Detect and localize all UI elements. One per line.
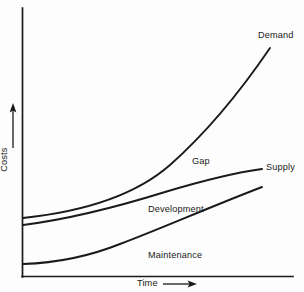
demand-curve <box>23 48 270 218</box>
chart-canvas <box>0 0 304 292</box>
gap-annotation-label: Gap <box>192 157 210 166</box>
demand-series-label: Demand <box>258 31 294 40</box>
maintenance-region-label: Maintenance <box>148 251 202 260</box>
x-axis-right-arrow-icon <box>163 281 197 288</box>
y-axis-up-arrow-icon <box>10 103 17 148</box>
x-axis-label: Time <box>137 279 158 288</box>
supply-curve <box>23 169 262 225</box>
costs-over-time-chart: Demand Supply Gap Development Maintenanc… <box>0 0 304 292</box>
supply-series-label: Supply <box>266 163 295 172</box>
y-axis-label: Costs <box>0 147 9 171</box>
development-region-label: Development <box>148 205 204 214</box>
